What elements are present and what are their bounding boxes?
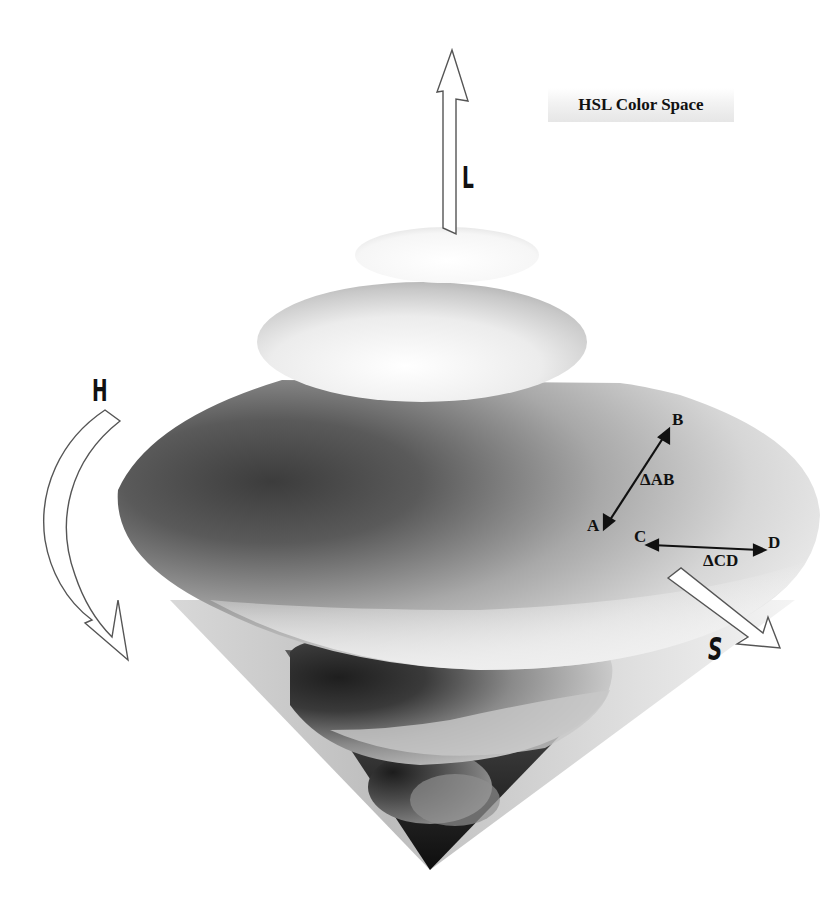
point-d-label: D <box>768 533 780 553</box>
tiny-disc-highlight <box>410 774 500 826</box>
middle-disc <box>257 282 587 402</box>
distance-cd-label: ΔCD <box>703 551 738 571</box>
hue-arrow-icon <box>44 410 128 660</box>
hue-axis-label: H <box>92 373 108 408</box>
hsl-diagram <box>0 0 831 920</box>
distance-ab-label: ΔAB <box>640 470 674 490</box>
diagram-title: HSL Color Space <box>578 95 703 115</box>
saturation-axis-label: S <box>708 630 722 668</box>
point-b-label: B <box>672 410 683 430</box>
top-disc <box>355 227 539 283</box>
title-banner: HSL Color Space <box>548 88 734 122</box>
lightness-axis-label: L <box>462 160 474 195</box>
point-a-label: A <box>587 516 599 536</box>
point-c-label: C <box>634 527 646 547</box>
lightness-arrow-icon <box>437 50 468 234</box>
